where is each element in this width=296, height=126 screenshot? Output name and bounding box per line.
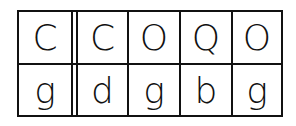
cell-top-3: O	[129, 12, 179, 63]
letter-grid: C C O Q O g d g b g	[17, 10, 283, 117]
cell-bottom-3: g	[129, 65, 179, 117]
cell-bottom-2: d	[78, 65, 127, 117]
cell-top-4: Q	[181, 12, 231, 63]
cell-top-1: C	[19, 12, 71, 63]
cell-bottom-4: b	[181, 65, 231, 117]
cell-top-2: C	[78, 12, 127, 63]
cell-bottom-5: g	[233, 65, 281, 117]
cell-bottom-1: g	[19, 65, 71, 117]
cell-top-5: O	[233, 12, 281, 63]
